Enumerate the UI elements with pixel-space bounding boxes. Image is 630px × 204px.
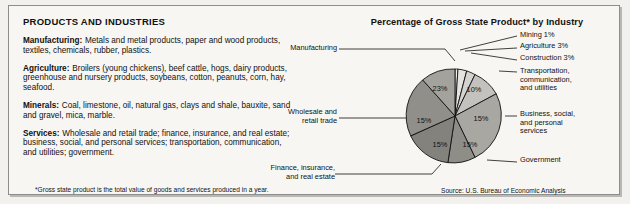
leader-agriculture [465,48,517,51]
products-and-industries-block: PRODUCTS AND INDUSTRIES Manufacturing: M… [23,16,295,166]
page-title: PRODUCTS AND INDUSTRIES [23,16,295,27]
pie-chart: 23% 15% 15% 15% 15% 10% Manufacturing Wh… [327,28,627,188]
source-note: Source: U.S. Bureau of Economic Analysis [441,187,566,194]
entry-term-minerals: Minerals: [23,101,59,110]
pct-label-business: 15% [474,114,489,123]
callout-manufacturing: Manufacturing [247,44,337,53]
callout-finance: Finance, insurance, and real estate [235,164,335,181]
leader-mining [460,36,517,50]
pct-label-manufacturing: 23% [433,84,448,93]
entry-services: Services: Wholesale and retail trade; fi… [23,129,295,158]
leader-manufacturing [339,49,455,61]
callout-business: Business, social, and personal services [520,110,620,136]
leader-construction [471,53,517,60]
entry-text-minerals: Coal, limestone, oil, natural gas, clays… [23,101,290,120]
entry-term-services: Services: [23,129,59,138]
callout-government: Government [520,156,561,165]
entry-text-services: Wholesale and retail trade; finance, ins… [23,129,289,158]
callout-transportation: Transportation, communication, and utili… [520,67,620,93]
info-panel: PRODUCTS AND INDUSTRIES Manufacturing: M… [8,5,620,195]
leader-transportation [499,71,517,72]
pct-label-finance: 15% [433,140,448,149]
pie-chart-svg: 23% 15% 15% 15% 15% 10% [327,28,627,188]
pct-label-government: 15% [463,140,478,149]
leader-finance [335,164,441,174]
pct-label-wholesale: 15% [417,116,432,125]
entry-term-manufacturing: Manufacturing: [23,36,82,45]
screenshot-root: PRODUCTS AND INDUSTRIES Manufacturing: M… [0,0,630,204]
entry-term-agriculture: Agriculture: [23,64,69,73]
footnote: *Gross state product is the total value … [35,186,325,194]
callout-wholesale: Wholesale and retail trade [265,108,337,125]
leader-government [487,160,517,162]
callout-agriculture: Agriculture 3% [520,42,568,51]
callout-construction: Construction 3% [520,54,574,63]
callout-mining: Mining 1% [520,31,555,40]
pct-label-transportation: 10% [467,85,482,94]
entry-minerals: Minerals: Coal, limestone, oil, natural … [23,101,295,121]
entry-agriculture: Agriculture: Broilers (young chickens), … [23,64,295,93]
chart-title: Percentage of Gross State Product* by In… [327,17,627,27]
